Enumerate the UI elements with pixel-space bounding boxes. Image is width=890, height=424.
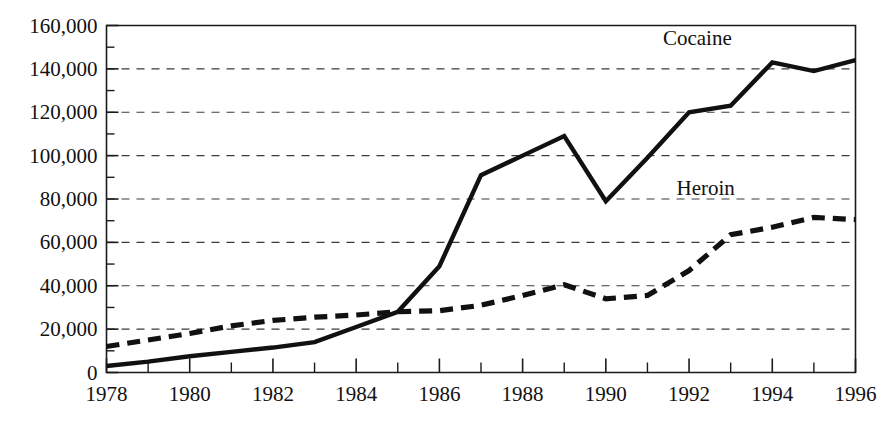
x-axis-tick-labels: 1978198019821984198619881990199219941996 — [86, 382, 877, 406]
y-axis-tick-labels: 020,00040,00060,00080,000100,000120,0001… — [29, 14, 97, 385]
grid-lines — [107, 69, 856, 329]
x-tick-label: 1984 — [335, 382, 378, 406]
y-tick-label: 60,000 — [40, 230, 98, 254]
data-series — [107, 60, 856, 366]
line-chart: 020,00040,00060,00080,000100,000120,0001… — [0, 0, 890, 424]
x-tick-label: 1988 — [502, 382, 544, 406]
y-tick-label: 160,000 — [29, 14, 97, 38]
x-tick-label: 1986 — [418, 382, 460, 406]
y-tick-label: 140,000 — [29, 57, 97, 81]
x-tick-label: 1980 — [169, 382, 211, 406]
x-tick-label: 1994 — [751, 382, 794, 406]
x-tick-label: 1982 — [252, 382, 294, 406]
series-label-cocaine: Cocaine — [663, 26, 732, 50]
x-tick-label: 1996 — [835, 382, 877, 406]
series-line-cocaine — [107, 60, 856, 366]
y-tick-label: 80,000 — [40, 187, 98, 211]
y-tick-label: 20,000 — [40, 317, 98, 341]
x-tick-label: 1992 — [668, 382, 710, 406]
y-tick-label: 40,000 — [40, 274, 98, 298]
chart-figure: 020,00040,00060,00080,000100,000120,0001… — [0, 0, 890, 424]
x-tick-label: 1990 — [585, 382, 627, 406]
y-tick-label: 100,000 — [29, 144, 97, 168]
y-tick-label: 120,000 — [29, 100, 97, 124]
series-label-heroin: Heroin — [677, 176, 736, 200]
series-line-heroin — [107, 217, 856, 346]
x-tick-label: 1978 — [86, 382, 128, 406]
